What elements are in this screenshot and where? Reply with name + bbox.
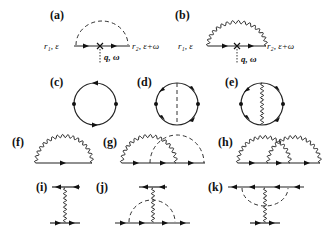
right-vertex-label: r₂, ε+ω — [267, 41, 294, 51]
panel-k: (k) — [208, 180, 304, 226]
panel-e: (e) — [225, 75, 285, 125]
wavy-arc — [35, 135, 94, 164]
panel-a: (a) r₁, ε r₂, ε+ω q, ω — [44, 8, 159, 64]
arrow-icon — [188, 161, 194, 166]
panel-label-h: (h) — [218, 135, 233, 149]
feynman-diagrams-figure: (a) r₁, ε r₂, ε+ω q, ω (b) r₁, ε r₂, ε+ω… — [0, 0, 336, 235]
arrow-icon — [92, 123, 98, 128]
panel-label-i: (i) — [36, 180, 47, 194]
wavy-exchange — [263, 188, 266, 222]
arrow-icon — [142, 185, 148, 190]
fermion-loop — [74, 83, 116, 125]
panel-label-g: (g) — [103, 135, 117, 149]
arrow-icon — [83, 44, 89, 49]
arrow-icon — [249, 185, 255, 190]
wavy-arc — [207, 21, 268, 47]
arrow-icon — [73, 185, 79, 190]
panel-c: (c) — [50, 75, 118, 128]
arrow-icon — [55, 185, 61, 190]
wavy-arc — [267, 136, 322, 164]
external-momentum-label: q, ω — [104, 52, 120, 62]
panel-label-j: (j) — [96, 180, 108, 194]
arrow-icon — [120, 221, 126, 226]
arrow-icon — [189, 86, 195, 91]
arrow-icon — [162, 221, 168, 226]
arrow-icon — [159, 185, 165, 190]
panel-label-k: (k) — [208, 180, 223, 194]
vertex-dot — [196, 102, 200, 106]
vertex-dot — [114, 102, 118, 106]
arrow-icon — [304, 161, 310, 166]
panel-label-c: (c) — [50, 75, 63, 89]
panel-label-e: (e) — [225, 75, 238, 89]
wavy-arc — [237, 136, 292, 164]
arrow-icon — [274, 86, 280, 91]
panel-label-d: (d) — [137, 75, 152, 89]
left-vertex-label: r₁, ε — [178, 41, 193, 51]
vertex-dot — [281, 102, 285, 106]
left-vertex-label: r₁, ε — [44, 41, 59, 51]
arrow-icon — [133, 161, 139, 166]
panel-label-f: (f) — [12, 135, 24, 149]
panel-i: (i) — [36, 180, 80, 226]
arrow-icon — [255, 221, 261, 226]
arrow-icon — [248, 44, 254, 49]
arrow-icon — [60, 161, 66, 166]
wavy-arc — [121, 135, 178, 164]
arrow-icon — [69, 221, 75, 226]
arrow-icon — [92, 81, 98, 86]
arrow-icon — [139, 221, 145, 226]
panel-b: (b) r₁, ε r₂, ε+ω q, ω — [175, 8, 294, 64]
vertex-dot — [154, 102, 158, 106]
right-vertex-label: r₂, ε+ω — [132, 41, 159, 51]
arrow-icon — [249, 161, 255, 166]
panel-h: (h) — [218, 135, 321, 166]
arrow-icon — [231, 185, 237, 190]
arrow-icon — [222, 44, 228, 49]
arrow-icon — [274, 185, 280, 190]
panel-label-a: (a) — [50, 8, 64, 22]
panel-g: (g) — [103, 135, 205, 166]
dashed-arc — [76, 21, 128, 45]
arrow-icon — [269, 221, 275, 226]
arrow-icon — [55, 221, 61, 226]
arrow-icon — [160, 161, 166, 166]
wavy-rung — [260, 83, 263, 125]
arrow-icon — [294, 185, 300, 190]
wavy-exchange — [63, 188, 66, 222]
arrow-icon — [276, 161, 282, 166]
wavy-exchange — [151, 188, 154, 222]
arrow-icon — [111, 44, 117, 49]
panel-d: (d) — [137, 75, 200, 125]
panel-j: (j) — [96, 180, 190, 226]
panel-label-b: (b) — [175, 8, 190, 22]
vertex-dot — [239, 102, 243, 106]
vertex-dot — [72, 102, 76, 106]
panel-f: (f) — [12, 135, 93, 166]
arrow-icon — [180, 221, 186, 226]
external-momentum-label: q, ω — [241, 54, 257, 64]
